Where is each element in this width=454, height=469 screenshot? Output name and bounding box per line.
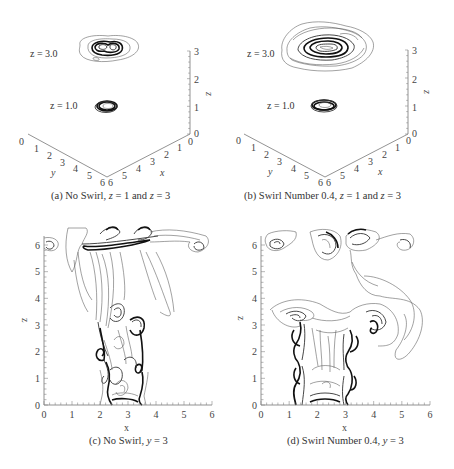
z-tick-label: 2 [412, 74, 417, 85]
y-axis-label: y [50, 167, 56, 178]
slice-label-z1: z = 1.0 [267, 100, 295, 111]
z-tick-label: 2 [194, 74, 199, 85]
contour-field [265, 229, 422, 405]
contour-slice-z1 [311, 100, 337, 112]
x-axis-line [325, 134, 408, 177]
x-tick-label: 1 [177, 142, 182, 153]
caption-c: (c) No Swirl, y = 3 [89, 435, 168, 447]
x-tick-label: 3 [126, 409, 131, 420]
contour-slice-z3 [282, 22, 374, 71]
panel-b: z = 3.0 z = 1.0 3 2 1 0 [236, 22, 433, 202]
x-tick-label: 6 [108, 177, 113, 188]
x-axis-label: x [342, 422, 347, 433]
z-tick-label: 3 [412, 45, 417, 56]
x-tick-label: 2 [98, 409, 103, 420]
y-tick-label: 6 [100, 177, 105, 188]
z-tick-label: 1 [194, 102, 199, 113]
z-axis-label: z [20, 318, 31, 323]
z-tick-labels: 3 2 1 0 [412, 45, 417, 139]
x-tick-label: 2 [382, 149, 387, 160]
x-tick-label: 5 [399, 409, 404, 420]
x-tick-label: 0 [259, 409, 264, 420]
z-tick-label: 3 [194, 46, 199, 57]
x-axis-line [107, 134, 190, 177]
figure-canvas: z = 3.0 z = 1.0 3 2 1 0 [0, 0, 454, 469]
y-tick-label: 1 [34, 143, 39, 154]
x-tick-label: 6 [428, 409, 433, 420]
slice-label-z3: z = 3.0 [247, 48, 275, 59]
slice-label-z1: z = 1.0 [50, 100, 78, 111]
z-axis-minor-ticks [187, 51, 190, 134]
x-tick-label: 2 [164, 149, 169, 160]
x-tick-label: 1 [70, 409, 75, 420]
y-tick-label: 3 [277, 156, 282, 167]
caption-d: (d) Swirl Number 0.4, y = 3 [287, 435, 404, 447]
z-tick-label: 5 [35, 266, 40, 277]
y-tick-label: 0 [19, 136, 24, 147]
z-tick-label: 3 [252, 320, 257, 331]
y-tick-labels: 0 1 2 3 4 5 6 [236, 135, 323, 188]
y-tick-label: 1 [251, 142, 256, 153]
z-tick-label: 1 [412, 102, 417, 113]
minor-ticks [44, 245, 212, 405]
panel-d: 0123456 0123456 x z (d) Swirl Number 0.4… [236, 229, 433, 447]
x-tick-label: 6 [326, 177, 331, 188]
x-tick-label: 4 [154, 409, 159, 420]
x-tick-label: 3 [150, 156, 155, 167]
x-tick-labels: 6 5 4 3 2 1 0 [326, 135, 411, 188]
x-tick-label: 3 [343, 409, 348, 420]
caption-a: (a) No Swirl, z = 1 and z = 3 [51, 190, 170, 202]
z-axis-label: z [236, 316, 247, 321]
x-tick-label: 5 [182, 409, 187, 420]
y-axis-line [28, 134, 107, 177]
x-tick-labels: 6 5 4 3 2 1 0 [108, 136, 193, 188]
x-tick-label: 4 [354, 163, 359, 174]
z-tick-label: 6 [35, 240, 40, 251]
z-axis-label: z [422, 89, 433, 94]
z-tick-labels: 3 2 1 0 [194, 46, 199, 139]
y-tick-labels: 0 1 2 3 4 5 6 [19, 136, 105, 188]
z-tick-label: 1 [252, 373, 257, 384]
y-axis-label: y [267, 166, 273, 177]
x-tick-label: 5 [122, 170, 127, 181]
z-tick-label: 3 [35, 320, 40, 331]
x-tick-label: 6 [210, 409, 215, 420]
z-tick-label: 4 [35, 293, 40, 304]
z-tick-label: 4 [252, 293, 257, 304]
contour-slice-z3 [79, 35, 138, 61]
panel-c: 0123456 0123456 x z (c) No Swirl, y = 3 [20, 227, 215, 447]
y-axis-line [244, 134, 325, 177]
x-axis-label: x [124, 422, 129, 433]
x-tick-label: 4 [136, 163, 141, 174]
z-axis-minor-ticks [405, 50, 408, 134]
slice-label-z3: z = 3.0 [30, 48, 58, 59]
z-tick-label: 1 [35, 373, 40, 384]
z-axis-label: z [204, 91, 215, 96]
z-tick-label: 2 [252, 346, 257, 357]
x-tick-label: 0 [42, 409, 47, 420]
y-tick-label: 4 [73, 163, 78, 174]
y-tick-label: 2 [264, 149, 269, 160]
z-tick-label: 2 [35, 346, 40, 357]
y-tick-label: 6 [318, 177, 323, 188]
z-tick-label: 5 [252, 266, 257, 277]
z-tick-label: 0 [412, 128, 417, 139]
x-axis-label: x [377, 166, 383, 177]
y-tick-label: 2 [47, 150, 52, 161]
z-tick-label: 0 [252, 400, 257, 411]
panel-a: z = 3.0 z = 1.0 3 2 1 0 [19, 35, 215, 202]
x-tick-label: 0 [188, 136, 193, 147]
x-axis-label: x [159, 167, 165, 178]
z-tick-label: 0 [194, 128, 199, 139]
y-tick-label: 5 [304, 170, 309, 181]
x-tick-labels: 0123456 [259, 409, 433, 420]
z-tick-label: 6 [252, 240, 257, 251]
x-tick-label: 5 [340, 170, 345, 181]
x-tick-label: 3 [368, 156, 373, 167]
x-tick-label: 2 [315, 409, 320, 420]
x-tick-label: 1 [287, 409, 292, 420]
x-tick-label: 4 [371, 409, 376, 420]
contour-field [44, 227, 208, 405]
x-tick-label: 1 [395, 142, 400, 153]
y-tick-label: 0 [236, 135, 241, 146]
